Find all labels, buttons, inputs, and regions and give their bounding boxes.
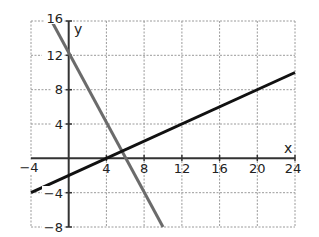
y-tick-labels: 16 12 8 4 −4 −8: [42, 10, 64, 235]
coordinate-plane-chart: −4 4 8 12 16 20 24 16 12 8 4 −4 −8 y x: [0, 0, 319, 237]
x-tick-label: 12: [174, 161, 191, 176]
y-tick-label: −8: [44, 220, 63, 235]
x-tick-label: −4: [19, 160, 38, 175]
x-tick-label: 16: [211, 161, 228, 176]
x-tick-label: 4: [102, 161, 110, 176]
x-axis-label: x: [284, 140, 292, 156]
x-tick-labels: −4 4 8 12 16 20 24: [18, 160, 301, 176]
x-tick-label: 20: [249, 161, 266, 176]
y-tick-label: 12: [46, 48, 63, 63]
y-tick-label: 4: [55, 117, 63, 132]
y-tick-label: −4: [44, 186, 63, 201]
y-axis-label: y: [74, 21, 82, 37]
y-tick-label: 16: [46, 11, 63, 26]
y-tick-label: 8: [55, 82, 63, 97]
x-tick-label: 8: [140, 161, 148, 176]
x-tick-label: 24: [285, 161, 302, 176]
